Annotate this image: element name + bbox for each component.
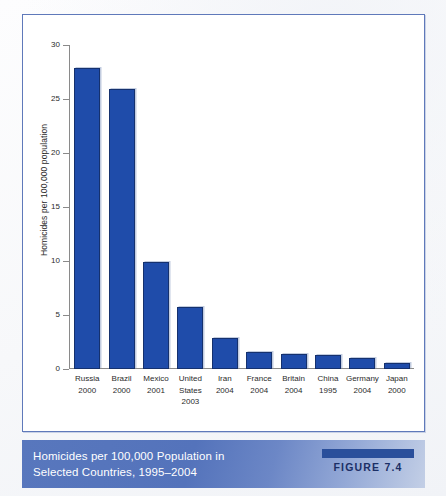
y-tick-label: 25 (51, 94, 60, 103)
bar-iran-2004 (212, 338, 238, 369)
caption-line-1: Homicides per 100,000 Population in (33, 448, 224, 464)
bar-series (70, 45, 414, 369)
y-tick-label: 20 (51, 148, 60, 157)
y-tick: 5 (63, 315, 69, 316)
caption-band: Homicides per 100,000 Population in Sele… (22, 440, 425, 488)
y-tick-mark (63, 315, 69, 316)
y-tick-label: 0 (56, 364, 60, 373)
bar-france-2004 (246, 352, 272, 369)
chart-frame: Homicides per 100,000 population 3025201… (22, 14, 425, 432)
figure-label: FIGURE 7.4 (322, 461, 414, 473)
y-tick-label: 15 (51, 202, 60, 211)
y-tick: 0 (63, 369, 69, 370)
y-tick-label: 30 (51, 40, 60, 49)
y-tick: 25 (63, 99, 69, 100)
plot-area: Homicides per 100,000 population 3025201… (23, 15, 426, 433)
page-background: Homicides per 100,000 population 3025201… (0, 0, 446, 496)
y-tick: 30 (63, 45, 69, 46)
bar-britain-2004 (281, 354, 307, 369)
caption-text: Homicides per 100,000 Population in Sele… (33, 448, 224, 480)
bar-united-states-2003 (177, 307, 203, 369)
x-axis-label-line: 2000 (377, 385, 417, 397)
y-tick-mark (63, 99, 69, 100)
y-tick-label: 10 (51, 256, 60, 265)
figure-badge-bar (322, 449, 414, 458)
x-axis-labels: Russia2000Brazil2000Mexico2001UnitedStat… (70, 373, 414, 429)
x-axis-label: Japan2000 (377, 373, 417, 396)
figure-badge: FIGURE 7.4 (322, 449, 414, 473)
y-tick: 15 (63, 207, 69, 208)
caption-line-2: Selected Countries, 1995–2004 (33, 464, 224, 480)
y-tick-label: 5 (56, 310, 60, 319)
y-tick-mark (63, 261, 69, 262)
x-axis-label-line: Japan (377, 373, 417, 385)
x-axis-label-line: 2003 (170, 396, 210, 408)
y-axis-title: Homicides per 100,000 population (39, 95, 49, 285)
bar-mexico-2001 (143, 262, 169, 369)
y-tick-mark (63, 207, 69, 208)
bar-brazil-2000 (109, 89, 135, 369)
y-tick-mark (63, 153, 69, 154)
y-tick: 20 (63, 153, 69, 154)
bar-japan-2000 (384, 363, 410, 369)
y-tick: 10 (63, 261, 69, 262)
bar-china-1995 (315, 355, 341, 369)
y-tick-mark (63, 45, 69, 46)
bar-russia-2000 (74, 68, 100, 369)
bar-germany-2004 (349, 358, 375, 369)
y-tick-mark (63, 369, 69, 370)
